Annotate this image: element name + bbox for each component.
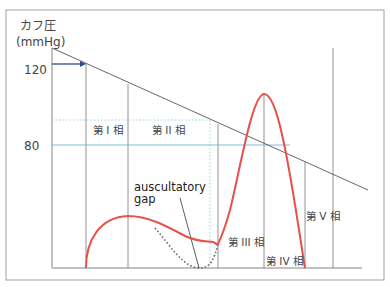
phase-label-2: 第 II 相 (152, 124, 185, 136)
korotkoff-diagram: カフ圧 (mmHg) 120 80 第 I 相 第 II 相 第 III 相 第… (0, 0, 390, 287)
gap-dotted-curve (155, 228, 218, 268)
y-axis-label-line1: カフ圧 (20, 19, 56, 33)
y-axis-label-line2: (mmHg) (16, 35, 65, 49)
phase-label-3: 第 III 相 (228, 236, 264, 248)
phase-label-4: 第 IV 相 (266, 255, 303, 267)
tick-80: 80 (24, 139, 39, 153)
annotation-pointer (180, 198, 199, 268)
cuff-pressure-line (52, 48, 368, 190)
phase-label-1: 第 I 相 (93, 124, 123, 136)
phase-label-5: 第 V 相 (306, 210, 340, 222)
annotation-line2: gap (134, 192, 156, 206)
tick-120: 120 (24, 63, 47, 77)
